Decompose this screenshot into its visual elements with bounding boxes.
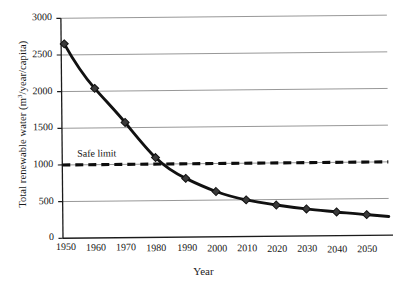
- gridline-1500: [62, 125, 388, 128]
- gridlines: [61, 15, 389, 201]
- gridline-3000: [61, 15, 387, 18]
- data-point-2020: [272, 201, 280, 209]
- gridline-2000: [62, 88, 388, 91]
- gridline-2500: [61, 52, 387, 55]
- chart-plot-area: 3000 2500 2000 1500 1000 500 0 1950 1960…: [0, 0, 411, 290]
- data-point-markers: [60, 37, 371, 222]
- y-tick-label-3000: 3000: [12, 11, 52, 22]
- y-axis-title-suffix: /year/capita): [17, 41, 28, 95]
- data-point-2050: [363, 211, 371, 219]
- x-axis-title-wrapper: Year: [0, 265, 411, 277]
- safe-limit-annotation-label: Safe limit: [77, 147, 116, 158]
- data-point-2040: [333, 208, 341, 216]
- y-axis-title: Total renewable water (m3/year/capita): [16, 24, 29, 224]
- y-axis-title-exponent: 3: [16, 94, 24, 98]
- y-axis-title-prefix: Total renewable water (m: [17, 98, 28, 208]
- gridline-500: [63, 198, 389, 201]
- x-axis-title: Year: [193, 265, 213, 277]
- data-point-2010: [242, 196, 250, 204]
- data-curve: [64, 41, 389, 220]
- x-axis-line: [63, 235, 393, 238]
- data-point-2030: [302, 205, 310, 213]
- data-point-2000: [212, 187, 220, 195]
- chart-figure: 3000 2500 2000 1500 1000 500 0 1950 1960…: [0, 0, 411, 290]
- x-tick-label-2050: 2050: [345, 243, 389, 254]
